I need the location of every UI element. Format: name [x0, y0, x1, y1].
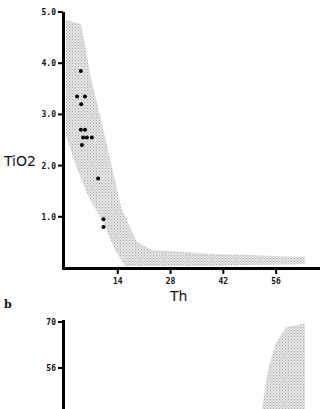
- y-axis-label: TiO2: [3, 153, 36, 169]
- panel-b-y-tick-label: 70: [46, 318, 56, 327]
- panel-b-shaded-field: [262, 324, 305, 409]
- data-point: [79, 128, 83, 132]
- data-point: [79, 102, 83, 106]
- x-tick-label: 42: [219, 277, 229, 286]
- panel-a-y-ticks: 1.02.03.04.05.0: [42, 8, 63, 222]
- panel-a-x-ticks: 14284256: [113, 270, 281, 286]
- x-tick-label: 28: [166, 277, 176, 286]
- chart-figure: 1.02.03.04.05.0 14284256 TiO2 Th b 5670: [0, 0, 322, 409]
- y-tick-label: 3.0: [42, 110, 57, 119]
- y-tick-label: 2.0: [42, 162, 57, 171]
- y-tick-label: 4.0: [42, 59, 57, 68]
- data-point: [101, 217, 105, 221]
- panel-b-y-ticks: 5670: [46, 318, 63, 373]
- data-point: [90, 135, 94, 139]
- data-point: [81, 135, 85, 139]
- data-point: [75, 94, 79, 98]
- data-point: [80, 143, 84, 147]
- x-tick-label: 14: [113, 277, 123, 286]
- x-tick-label: 56: [271, 277, 281, 286]
- data-point: [96, 176, 100, 180]
- data-point: [83, 128, 87, 132]
- data-point: [79, 69, 83, 73]
- data-point: [101, 225, 105, 229]
- x-axis-label: Th: [169, 288, 187, 304]
- data-point: [85, 135, 89, 139]
- y-tick-label: 1.0: [42, 213, 57, 222]
- y-axis: [62, 12, 65, 270]
- x-axis: [62, 267, 320, 270]
- panel-b-y-axis: [62, 320, 65, 409]
- panel-b-label: b: [4, 298, 12, 311]
- data-point: [83, 94, 87, 98]
- y-tick-label: 5.0: [42, 8, 57, 17]
- panel-b-y-tick-label: 56: [46, 364, 56, 373]
- panel-a-shaded-field: [66, 20, 305, 266]
